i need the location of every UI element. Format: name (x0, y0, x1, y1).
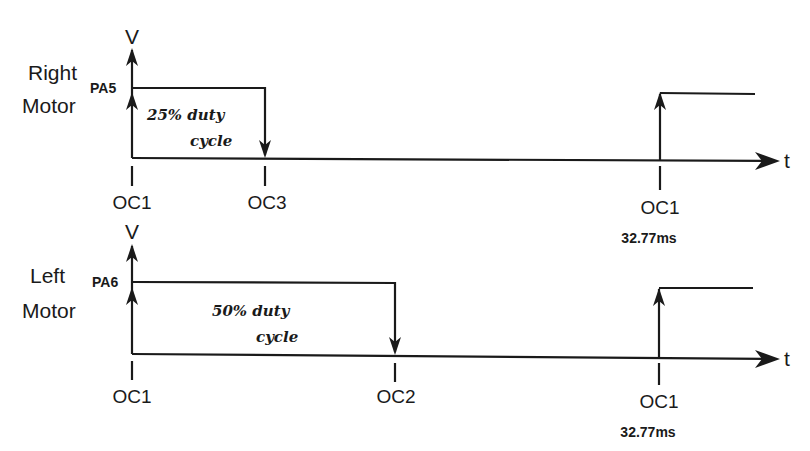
marker-oc1-period: OC1 (639, 391, 678, 412)
duty-cycle-text-line2: cycle (190, 132, 232, 150)
marker-oc1: OC1 (112, 192, 151, 213)
pin-label: PA6 (92, 274, 118, 290)
period-label: 32.77ms (620, 424, 675, 440)
marker-oc3: OC3 (247, 192, 286, 213)
marker-oc2: OC2 (376, 386, 415, 407)
duty-cycle-text-line1: 50% duty (212, 302, 291, 320)
motor-label-line2: Motor (22, 299, 76, 322)
duty-cycle-text-line2: cycle (256, 328, 298, 346)
marker-oc1-period: OC1 (640, 197, 679, 218)
motor-label-line2: Motor (22, 94, 76, 117)
y-axis-arrow-icon (126, 244, 138, 354)
x-axis-label: t (784, 347, 790, 370)
marker-oc1: OC1 (112, 386, 151, 407)
period-label: 32.77ms (621, 230, 676, 246)
left-motor-panel: V Left Motor PA6 t 50% duty cycle OC1 OC… (22, 220, 790, 440)
pwm-timing-diagram: V Right Motor PA5 t 25% duty cycle OC1 O… (0, 0, 810, 451)
x-axis-label: t (784, 149, 790, 172)
y-axis-arrow-icon (126, 48, 138, 158)
next-pulse-high (660, 93, 755, 94)
right-motor-panel: V Right Motor PA5 t 25% duty cycle OC1 O… (22, 25, 790, 246)
y-axis-label: V (125, 25, 139, 48)
motor-label-line1: Left (30, 264, 65, 287)
y-axis-label: V (125, 220, 139, 243)
pin-label: PA5 (90, 80, 116, 96)
duty-cycle-text-line1: 25% duty (146, 106, 226, 124)
x-axis (132, 158, 770, 161)
x-axis (132, 354, 770, 359)
motor-label-line1: Right (28, 61, 77, 84)
